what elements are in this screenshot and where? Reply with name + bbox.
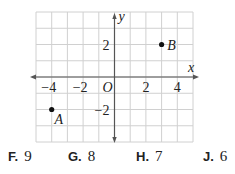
x-tick-label: −2 [73,80,88,95]
axis-labels: −4−2242−2OxyAB [41,9,195,127]
choice-letter: G. [68,149,82,164]
point-label: B [167,38,176,53]
x-axis-arrow-left-icon [30,75,36,80]
choice-letter: H. [136,149,149,164]
y-tick-label: −2 [95,103,110,118]
x-axis-arrow-right-icon [193,75,199,80]
x-tick-label: −4 [41,80,56,95]
choice-g[interactable]: G.8 [68,148,95,165]
choice-h[interactable]: H.7 [136,148,163,165]
choice-j[interactable]: J.6 [203,148,227,165]
x-tick-label: 2 [142,80,149,95]
x-tick-label: 4 [174,80,181,95]
choice-letter: J. [203,149,214,164]
choice-value: 9 [24,148,32,164]
y-tick-label: 2 [103,38,110,53]
point-b [159,42,164,47]
x-axis-label: x [187,60,195,75]
choice-value: 6 [220,148,228,164]
y-axis-arrow-up-icon [112,13,116,19]
point-a [49,107,54,112]
choice-value: 7 [155,148,163,164]
coordinate-plane: −4−2242−2OxyAB [0,0,235,148]
choice-f[interactable]: F.9 [8,148,32,165]
origin-label: O [102,80,112,95]
point-label: A [53,112,63,127]
choice-value: 8 [88,148,96,164]
answer-choices: F.9 G.8 H.7 J.6 [0,148,235,168]
choice-letter: F. [8,149,18,164]
y-axis-label: y [116,9,125,24]
